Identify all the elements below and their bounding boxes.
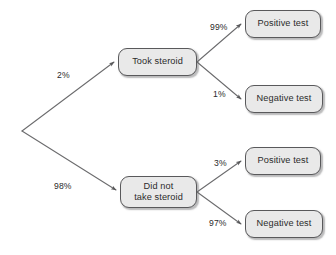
node-took-steroid-positive-test[interactable]: Positive test <box>245 10 321 38</box>
node-did-not-take-steroid-negative-test[interactable]: Negative test <box>245 210 323 238</box>
node-took-steroid[interactable]: Took steroid <box>118 48 197 76</box>
node-did-not-take-steroid[interactable]: Did not take steroid <box>120 176 197 208</box>
node-did-not-take-steroid-negative-test-label: Negative test <box>254 218 315 230</box>
edge-label-root-to-did-not-take-steroid: 98% <box>54 181 72 191</box>
edge-label-took-steroid-to-negative-test: 1% <box>213 89 226 99</box>
edge-label-did-not-take-steroid-to-positive-test: 3% <box>214 158 227 168</box>
node-did-not-take-steroid-positive-test-label: Positive test <box>255 155 312 167</box>
node-did-not-take-steroid-label: Did not take steroid <box>131 181 186 204</box>
node-did-not-take-steroid-positive-test[interactable]: Positive test <box>245 147 321 175</box>
edge-label-took-steroid-to-positive-test: 99% <box>210 22 228 32</box>
node-took-steroid-positive-test-label: Positive test <box>255 18 312 30</box>
node-took-steroid-negative-test[interactable]: Negative test <box>245 85 323 113</box>
edge-label-root-to-took-steroid: 2% <box>57 70 70 80</box>
node-took-steroid-label: Took steroid <box>129 56 186 68</box>
probability-tree-diagram: Took steroid Did not take steroid Positi… <box>0 0 336 255</box>
edge-label-did-not-take-steroid-to-negative-test: 97% <box>209 218 227 228</box>
node-took-steroid-negative-test-label: Negative test <box>254 93 315 105</box>
